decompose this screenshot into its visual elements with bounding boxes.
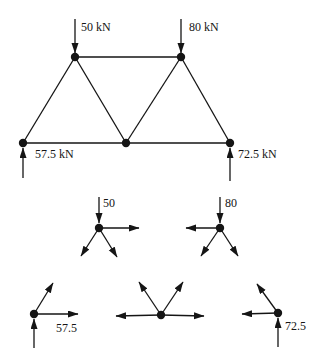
joint-fbd-top-left-node [95, 224, 103, 232]
joint-fbd-bottom-middle-node [157, 311, 165, 319]
joint-fbd-bottom-left-node [30, 310, 38, 318]
joint-fbd-bottom-right-node [274, 309, 282, 317]
reaction-arrow-57-5kN-label: 57.5 kN [35, 147, 74, 161]
truss-node-bottom-right [226, 139, 234, 147]
load-arrow-80kN-label: 80 kN [189, 20, 219, 34]
joint-fbd-bottom-right-label: 72.5 [285, 319, 306, 333]
figure-background [0, 0, 318, 361]
truss-figure: 50 kN80 kN57.5 kN72.5 kN508057.572.5 [0, 0, 318, 361]
truss-node-bottom-middle [122, 139, 130, 147]
joint-fbd-top-right-label: 80 [225, 196, 237, 210]
truss-node-top-left [71, 53, 79, 61]
reaction-arrow-72-5kN-label: 72.5 kN [238, 147, 277, 161]
joint-fbd-top-left-label: 50 [103, 196, 115, 210]
load-arrow-50kN-label: 50 kN [81, 20, 111, 34]
truss-node-top-right [177, 53, 185, 61]
joint-fbd-bottom-left-label: 57.5 [56, 321, 77, 335]
joint-fbd-top-right-node [216, 224, 224, 232]
truss-diagram-svg: 50 kN80 kN57.5 kN72.5 kN508057.572.5 [0, 0, 318, 361]
truss-node-bottom-left [19, 139, 27, 147]
